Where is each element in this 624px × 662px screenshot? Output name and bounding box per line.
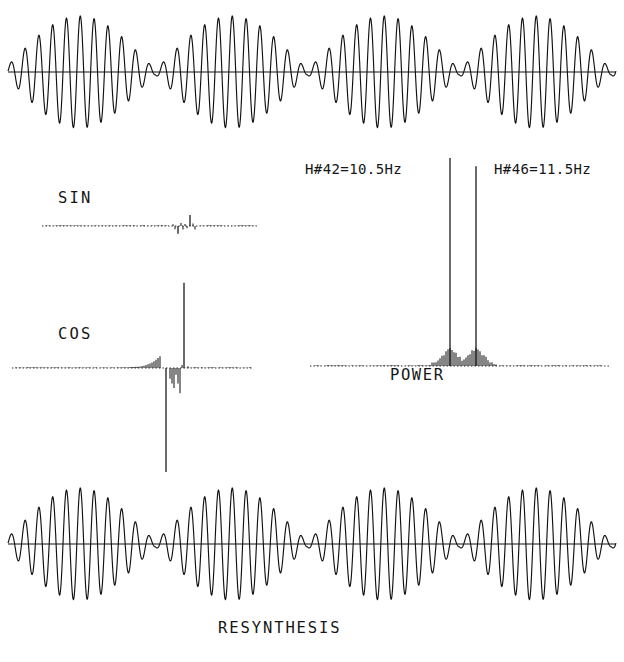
sin-spectrum-spikes xyxy=(46,215,254,234)
cos-label: COS xyxy=(58,325,93,343)
power-spectrum-plot xyxy=(300,150,624,375)
cos-spectrum-spikes xyxy=(16,283,250,472)
harmonic-left-label: H#42=10.5Hz xyxy=(305,161,402,177)
harmonic-right-label: H#46=11.5Hz xyxy=(494,161,591,177)
resynthesis-waveform-plot xyxy=(0,480,624,608)
original-waveform-plot xyxy=(0,8,624,136)
sin-spectrum-panel xyxy=(0,200,300,260)
power-spectrum-panel xyxy=(300,150,624,375)
cos-spectrum-plot xyxy=(0,266,300,478)
resynthesis-waveform-panel xyxy=(0,480,624,608)
power-label: POWER xyxy=(390,366,445,384)
sin-label: SIN xyxy=(58,189,93,207)
sin-spectrum-plot xyxy=(0,200,300,260)
cos-spectrum-panel xyxy=(0,266,300,478)
power-spectrum-spikes xyxy=(314,158,606,366)
resynthesis-label: RESYNTHESIS xyxy=(218,619,342,637)
fourier-analysis-figure: SIN COS POWER H#42=10.5Hz H#46=11.5Hz RE… xyxy=(0,0,624,662)
original-waveform-panel xyxy=(0,8,624,136)
